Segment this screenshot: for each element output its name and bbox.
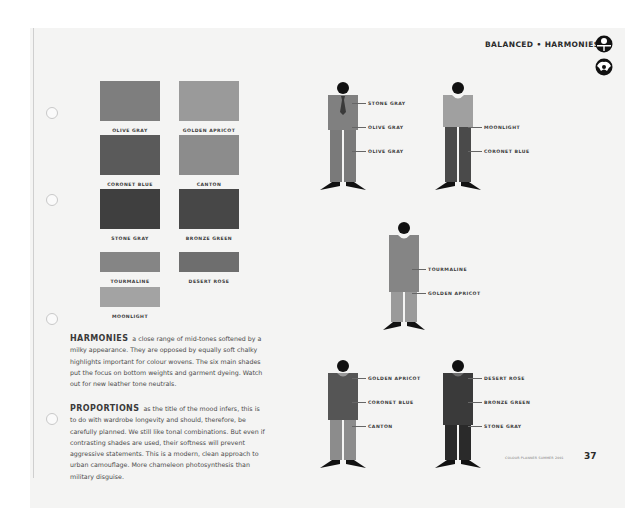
figure-5-label-top: DESERT ROSE — [484, 376, 525, 381]
binder-hole — [46, 194, 58, 206]
swatch-golden-apricot: GOLDEN APRICOT — [179, 81, 239, 133]
figure-4-label-bottom: CANTON — [368, 424, 393, 429]
swatch-chip — [100, 135, 160, 175]
figure-2-label-bottom: CORONET BLUE — [484, 149, 530, 154]
proportions-body: as the title of the mood infers, this is… — [70, 405, 265, 480]
footer-note: COLOUR PLANNER SUMMER 2001 — [505, 456, 564, 460]
swatch-label: BRONZE GREEN — [179, 236, 239, 241]
leader-line — [468, 402, 482, 403]
page-number: 37 — [584, 451, 597, 461]
swatch-desert-rose: DESERT ROSE — [179, 252, 239, 284]
leader-line — [352, 378, 366, 379]
swatch-label: TOURMALINE — [100, 279, 160, 284]
swatch-chip — [100, 287, 160, 307]
swatch-canton: CANTON — [179, 135, 239, 187]
harmonies-heading: HARMONIES — [70, 334, 128, 343]
figure-1-label-bottom: OLIVE GRAY — [368, 149, 404, 154]
leader-line — [468, 127, 482, 128]
figure-5-outfit — [435, 358, 485, 470]
page-edge — [33, 28, 34, 478]
figure-1-suit — [320, 80, 370, 192]
page-header: BALANCED • HARMONIES — [485, 40, 600, 49]
swatch-coronet-blue: CORONET BLUE — [100, 135, 160, 187]
swatch-chip — [179, 189, 239, 229]
figure-4-label-middle: CORONET BLUE — [368, 400, 414, 405]
leader-line — [468, 378, 482, 379]
swatch-chip — [100, 81, 160, 121]
swatch-label: CORONET BLUE — [100, 182, 160, 187]
swatch-stone-gray: STONE GRAY — [100, 189, 160, 241]
proportions-heading: PROPORTIONS — [70, 404, 139, 413]
swatch-bronze-green: BRONZE GREEN — [179, 189, 239, 241]
figure-2-outfit — [435, 80, 485, 192]
leader-line — [352, 426, 366, 427]
figure-1-label-top: STONE GRAY — [368, 101, 406, 106]
swatch-chip — [100, 252, 160, 272]
balanced-symbol-icon — [595, 35, 613, 53]
swatch-tourmaline: TOURMALINE — [100, 252, 160, 284]
swatch-label: STONE GRAY — [100, 236, 160, 241]
figure-5-label-bottom: STONE GRAY — [484, 424, 522, 429]
swatch-chip — [179, 81, 239, 121]
figure-4-outfit — [320, 358, 370, 470]
swatch-label: MOONLIGHT — [100, 314, 160, 319]
leader-line — [352, 151, 366, 152]
swatch-label: OLIVE GRAY — [100, 128, 160, 133]
leader-line — [468, 151, 482, 152]
swatch-moonlight: MOONLIGHT — [100, 287, 160, 319]
binder-hole — [46, 413, 58, 425]
figure-1-label-middle: OLIVE GRAY — [368, 125, 404, 130]
swatch-label: GOLDEN APRICOT — [179, 128, 239, 133]
figure-2-label-top: MOONLIGHT — [484, 125, 520, 130]
swatch-olive-gray: OLIVE GRAY — [100, 81, 160, 133]
figure-3-label-bottom: GOLDEN APRICOT — [428, 291, 481, 296]
proportions-paragraph: PROPORTIONS as the title of the mood inf… — [70, 403, 265, 482]
leader-line — [352, 402, 366, 403]
figure-3-outfit — [383, 220, 433, 332]
leader-line — [468, 426, 482, 427]
binder-hole — [46, 107, 58, 119]
leader-line — [352, 103, 366, 104]
leader-line — [412, 293, 426, 294]
swatch-label: DESERT ROSE — [179, 279, 239, 284]
figure-4-label-top: GOLDEN APRICOT — [368, 376, 421, 381]
swatch-chip — [179, 252, 239, 272]
swatch-chip — [100, 189, 160, 229]
swatch-label: CANTON — [179, 182, 239, 187]
leader-line — [352, 127, 366, 128]
binder-hole — [46, 313, 58, 325]
swatch-chip — [179, 135, 239, 175]
harmonies-globe-icon — [595, 58, 613, 76]
leader-line — [412, 269, 426, 270]
harmonies-paragraph: HARMONIES a close range of mid-tones sof… — [70, 333, 265, 389]
figure-3-label-top: TOURMALINE — [428, 267, 467, 272]
figure-5-label-middle: BRONZE GREEN — [484, 400, 530, 405]
